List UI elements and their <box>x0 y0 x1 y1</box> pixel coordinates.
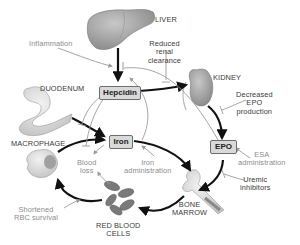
bone-marrow-label: BONE MARROW <box>172 201 207 218</box>
rbc-label-line2: CELLS <box>96 230 140 238</box>
red-blood-cells-icon <box>103 180 136 217</box>
iron-administration-arrow <box>142 146 154 156</box>
macrophage-icon <box>27 149 58 177</box>
shortened-rbc-survival-label: Shortened RBC survival <box>14 206 58 223</box>
red-blood-cells-label: RED BLOOD CELLS <box>96 222 140 239</box>
shortened-survival-arrow <box>64 200 80 208</box>
iron-to-blood-loss-arrow <box>94 145 104 154</box>
esa-administration-label: ESA administration <box>238 151 285 168</box>
label-line: loss <box>77 167 96 175</box>
label-line: administration <box>238 159 285 167</box>
hepcidin-to-kidney-arrow <box>139 85 186 91</box>
label-line: RBC survival <box>14 214 58 222</box>
blood-loss-label: Blood loss <box>77 159 96 176</box>
macrophage-label: MACROPHAGE <box>11 140 65 148</box>
hepcidin-inhibits-duodenum-line <box>82 97 100 124</box>
iron-node: Iron <box>109 135 133 149</box>
inflammation-arrow <box>58 48 112 66</box>
kidney-icon <box>183 69 213 110</box>
label-line: clearance <box>148 57 181 65</box>
kidney-label: KIDNEY <box>213 74 241 82</box>
duodenum-label: DUODENUM <box>40 85 84 93</box>
epo-node: EPO <box>210 140 237 154</box>
epo-to-bone-marrow-arrow <box>200 160 223 190</box>
iron-administration-label: Iron administration <box>124 159 171 176</box>
bone-marrow-label-line2: MARROW <box>172 209 207 217</box>
kidney-to-epo-arrow <box>208 106 222 138</box>
inflammation-label: Inflammation <box>29 40 73 48</box>
liver-label: LIVER <box>155 16 177 24</box>
uremic-inhibitors-label: Uremic inhibitors <box>240 176 271 193</box>
decreased-epo-production-label: Decreased EPO production <box>236 91 273 116</box>
hepcidin-node: Hepcidin <box>99 86 141 100</box>
reduced-renal-clearance-label: Reduced renal clearance <box>148 40 181 65</box>
label-line: production <box>236 108 273 116</box>
duodenum-icon <box>19 87 72 136</box>
liver-icon <box>87 10 154 50</box>
iron-regulation-diagram: Hepcidin Iron EPO LIVER KIDNEY DUODENUM … <box>0 0 300 245</box>
label-line: inhibitors <box>240 184 271 192</box>
rbc-to-macrophage-arrow <box>58 180 102 201</box>
label-line: administration <box>124 167 171 175</box>
